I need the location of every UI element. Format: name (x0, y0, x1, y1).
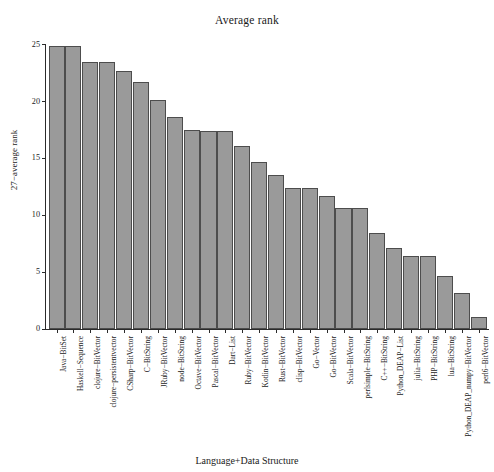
x-tick-mark (124, 330, 125, 333)
bar (200, 131, 216, 329)
x-tick-label: clisp−BitVector (296, 336, 304, 382)
bar (335, 208, 351, 329)
bar (319, 196, 335, 329)
bar (184, 130, 200, 329)
bar (49, 46, 65, 329)
x-tick-label: lua−BitString (448, 336, 456, 376)
x-tick-label: Kotlin−BitVector (262, 336, 270, 387)
bar (471, 317, 487, 330)
x-tick-label: julia−BitString (414, 336, 422, 380)
y-tick-label: 10 (32, 209, 40, 220)
bar (234, 146, 250, 329)
y-axis-ticks: 0510152025 (0, 0, 45, 472)
bar (437, 276, 453, 329)
x-tick-label: clojure−BitVector (94, 336, 102, 389)
y-tick-label: 15 (32, 152, 40, 163)
x-tick-mark (90, 330, 91, 333)
x-tick-mark (293, 330, 294, 333)
x-tick-mark (394, 330, 395, 333)
x-tick-mark (242, 330, 243, 333)
y-tick: 5 (1, 272, 45, 273)
x-tick-mark (225, 330, 226, 333)
x-tick-mark (327, 330, 328, 333)
bar (420, 256, 436, 329)
x-tick-mark (259, 330, 260, 333)
bar (454, 293, 470, 329)
x-tick-label: PHP−BitString (431, 336, 439, 381)
y-tick: 25 (1, 45, 45, 46)
y-tick: 20 (1, 102, 45, 103)
x-tick-label: Python_DEAP_numpy−BitVector (465, 336, 473, 437)
chart-title: Average rank (0, 14, 494, 26)
x-tick-label: perl6−BitVector (482, 336, 490, 384)
x-tick-label: Rust−BitVector (279, 336, 287, 382)
bar (150, 100, 166, 329)
x-tick-label: clojure−persistentvector (110, 336, 118, 407)
bar (217, 131, 233, 329)
y-tick-label: 5 (36, 266, 40, 277)
y-tick: 10 (1, 215, 45, 216)
bar (302, 188, 318, 329)
bar (251, 162, 267, 329)
x-tick-mark (479, 330, 480, 333)
x-tick-label: Go−BitVector (330, 336, 338, 378)
x-tick-mark (141, 330, 142, 333)
x-tick-label: Java−BitSet (60, 336, 68, 372)
x-tick-mark (310, 330, 311, 333)
x-tick-label: Octave−BitVector (195, 336, 203, 389)
x-tick-label: C++−BitString (381, 336, 389, 381)
x-tick-label: Dart−List (229, 336, 237, 365)
x-tick-mark (192, 330, 193, 333)
x-tick-label: Pascal−BitVector (212, 336, 220, 387)
x-tick-label: Scala−BitVector (347, 336, 355, 385)
y-tick-label: 20 (32, 96, 40, 107)
bar (369, 233, 385, 329)
x-tick-mark (344, 330, 345, 333)
bar (403, 256, 419, 329)
y-tick: 0 (1, 329, 45, 330)
bar (352, 208, 368, 329)
x-tick-mark (175, 330, 176, 333)
plot-area (46, 40, 490, 329)
bar (285, 188, 301, 329)
x-tick-label: CSharp−BitVector (127, 336, 135, 391)
x-tick-mark (360, 330, 361, 333)
x-axis-ticks: Java−BitSetHaskell−Sequenceclojure−BitVe… (46, 330, 490, 470)
x-tick-mark (158, 330, 159, 333)
average-rank-bar-chart: Average rank 27−average rank 0510152025 … (0, 0, 494, 472)
x-tick-label: Ruby−BitVector (245, 336, 253, 385)
x-tick-mark (73, 330, 74, 333)
bar (82, 62, 98, 329)
x-tick-mark (428, 330, 429, 333)
x-tick-label: Go−Vector (313, 336, 321, 369)
x-tick-label: JRuby−BitVector (161, 336, 169, 387)
x-tick-label: perlsimple−BitString (364, 336, 372, 398)
bar (116, 71, 132, 329)
bar (65, 46, 81, 329)
bar (386, 248, 402, 329)
x-tick-label: Haskell−Sequence (77, 336, 85, 391)
bar (167, 117, 183, 329)
x-tick-label: Python_DEAP−List (397, 336, 405, 396)
bar (268, 175, 284, 329)
x-tick-label: C−BitString (144, 336, 152, 372)
x-tick-mark (107, 330, 108, 333)
x-axis-title: Language+Data Structure (0, 455, 494, 466)
y-tick: 15 (1, 158, 45, 159)
y-tick-label: 25 (32, 39, 40, 50)
x-tick-mark (57, 330, 58, 333)
x-tick-mark (411, 330, 412, 333)
x-tick-mark (445, 330, 446, 333)
x-tick-mark (276, 330, 277, 333)
bar (133, 82, 149, 329)
x-tick-label: node−BitString (178, 336, 186, 382)
x-tick-mark (209, 330, 210, 333)
y-tick-label: 0 (36, 323, 40, 334)
x-tick-mark (377, 330, 378, 333)
bar (99, 62, 115, 329)
x-tick-mark (462, 330, 463, 333)
